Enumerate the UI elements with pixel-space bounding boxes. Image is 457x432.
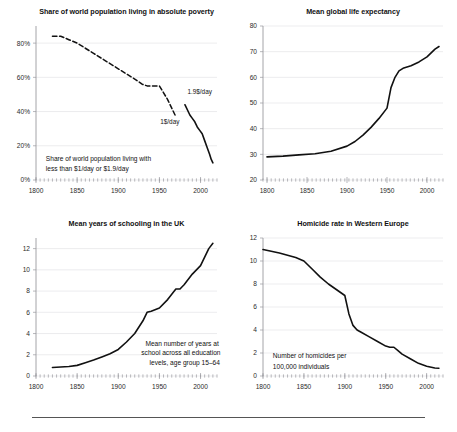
y-tick-label: 70 — [250, 48, 258, 55]
chart-title: Mean years of schooling in the UK — [69, 219, 186, 228]
x-tick-label: 1800 — [260, 187, 275, 194]
panel-schooling: 02468101218001850190019502000Mean years … — [0, 214, 229, 410]
x-tick-label: 1850 — [297, 383, 312, 390]
y-tick-label: 6 — [26, 309, 30, 316]
series-line-1-9-day — [185, 105, 213, 163]
series-line-homicide-rate — [263, 250, 439, 369]
y-tick-label: 8 — [26, 287, 30, 294]
x-tick-label: 2000 — [193, 383, 208, 390]
chart-annotation: Share of world population living with — [46, 155, 152, 163]
chart-title: Share of world population living in abso… — [39, 7, 214, 16]
x-tick-label: 1950 — [152, 383, 167, 390]
y-tick-label: 0 — [253, 372, 257, 379]
x-tick-label: 2000 — [420, 187, 435, 194]
x-tick-label: 1900 — [111, 187, 126, 194]
chart-annotation: 1.9$/day — [187, 88, 212, 96]
chart-annotation: 1$/day — [160, 118, 180, 126]
chart-title: Homicide rate in Western Europe — [297, 219, 408, 228]
y-tick-label: 12 — [250, 234, 258, 241]
y-tick-label: 10 — [23, 266, 31, 273]
chart-annotation: Number of homicides per — [273, 352, 347, 360]
y-tick-label: 60% — [17, 74, 30, 81]
chart-title: Mean global life expectancy — [306, 7, 400, 16]
y-tick-label: 50 — [250, 99, 258, 106]
y-tick-label: 2 — [26, 351, 30, 358]
y-tick-label: 60 — [250, 74, 258, 81]
chart-annotation: Mean number of years at — [145, 340, 218, 348]
figure-root: 0%20%40%60%80%18001850190019502000Share … — [0, 0, 457, 432]
y-tick-label: 0 — [26, 372, 30, 379]
chart-schooling: 02468101218001850190019502000Mean years … — [0, 214, 229, 410]
y-tick-label: 8 — [253, 280, 257, 287]
y-tick-label: 40 — [250, 125, 258, 132]
x-tick-label: 1800 — [29, 187, 44, 194]
x-tick-label: 1900 — [111, 383, 126, 390]
series-line-1-day — [52, 36, 175, 116]
y-tick-label: 20 — [250, 176, 258, 183]
panel-poverty: 0%20%40%60%80%18001850190019502000Share … — [0, 0, 229, 214]
panel-life-expectancy: 2030405060708018001850190019502000Mean g… — [229, 0, 457, 214]
series-line-life-expectancy — [267, 47, 439, 157]
x-tick-label: 1900 — [337, 383, 352, 390]
x-tick-label: 1900 — [340, 187, 355, 194]
footer-divider — [32, 417, 425, 418]
chart-grid: 0%20%40%60%80%18001850190019502000Share … — [0, 0, 457, 410]
x-tick-label: 2000 — [193, 187, 208, 194]
panel-homicide: 02468101218001850190019502000Homicide ra… — [229, 214, 457, 410]
y-tick-label: 12 — [23, 245, 31, 252]
y-tick-label: 30 — [250, 151, 258, 158]
y-tick-label: 0% — [20, 176, 30, 183]
y-tick-label: 4 — [26, 330, 30, 337]
x-tick-label: 1850 — [70, 187, 85, 194]
x-tick-label: 1950 — [378, 383, 393, 390]
chart-annotation: school across all education — [141, 349, 221, 356]
y-tick-label: 40% — [17, 108, 30, 115]
chart-annotation: less than $1/day or $1.9/day — [46, 165, 130, 173]
x-tick-label: 1800 — [256, 383, 271, 390]
y-tick-label: 80% — [17, 40, 30, 47]
chart-annotation: 100,000 individuals — [273, 363, 330, 370]
y-tick-label: 4 — [253, 326, 257, 333]
chart-homicide: 02468101218001850190019502000Homicide ra… — [229, 214, 457, 410]
x-tick-label: 1850 — [300, 187, 315, 194]
y-tick-label: 2 — [253, 349, 257, 356]
chart-life-expectancy: 2030405060708018001850190019502000Mean g… — [229, 0, 457, 214]
x-tick-label: 1950 — [152, 187, 167, 194]
x-tick-label: 1850 — [70, 383, 85, 390]
x-tick-label: 1950 — [380, 187, 395, 194]
y-tick-label: 10 — [250, 257, 258, 264]
y-tick-label: 20% — [17, 142, 30, 149]
y-tick-label: 80 — [250, 22, 258, 29]
chart-poverty: 0%20%40%60%80%18001850190019502000Share … — [0, 0, 229, 214]
y-tick-label: 6 — [253, 303, 257, 310]
x-tick-label: 2000 — [419, 383, 434, 390]
x-tick-label: 1800 — [29, 383, 44, 390]
chart-annotation: levels, age group 15–64 — [150, 359, 221, 367]
